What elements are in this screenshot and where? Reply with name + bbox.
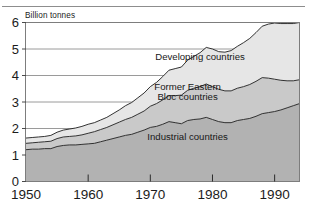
x-tick-label: 1990 [260, 187, 290, 202]
y-tick-label: 3 [12, 95, 19, 110]
chart-figure: Billion tonnes 0123456 19501960197019801… [0, 0, 311, 205]
y-axis-ticks: 0123456 [12, 15, 26, 189]
stacked-area-plot: 0123456 19501960197019801990 Developing … [0, 0, 311, 205]
series-annotation: Developing countries [155, 51, 245, 62]
x-tick-label: 1960 [73, 187, 103, 202]
y-tick-label: 1 [12, 148, 19, 163]
series-annotation: Bloc countries [157, 91, 217, 102]
y-tick-label: 5 [12, 42, 19, 57]
y-tick-label: 6 [12, 15, 19, 30]
y-tick-label: 4 [12, 68, 19, 83]
x-tick-label: 1980 [197, 187, 227, 202]
series-annotation: Industrial countries [147, 131, 228, 142]
x-tick-label: 1950 [11, 187, 41, 202]
x-tick-label: 1970 [135, 187, 165, 202]
y-tick-label: 2 [12, 121, 19, 136]
